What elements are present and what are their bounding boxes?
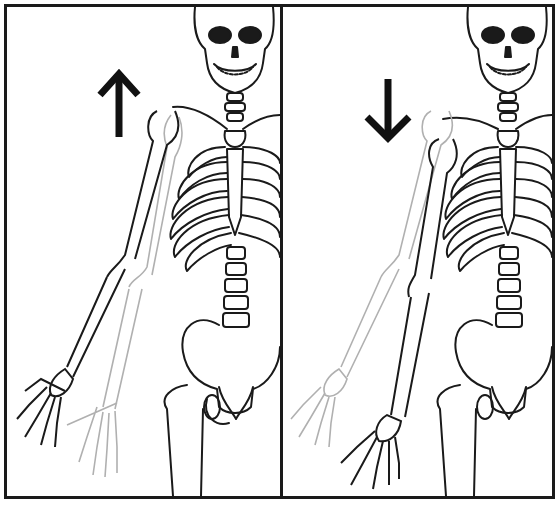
skull-icon — [194, 7, 273, 93]
skeleton-illustration-right — [283, 7, 552, 496]
femur — [165, 385, 187, 496]
lumbar-spine — [496, 247, 522, 327]
hand-icon — [17, 369, 73, 447]
rib-cage — [170, 147, 280, 271]
skull-icon — [467, 7, 546, 93]
panel-right-arm-lower: arm lowered (adduction) — [283, 7, 552, 496]
down-arrow-icon — [367, 79, 409, 139]
pelvis — [182, 320, 280, 424]
pelvis — [455, 320, 552, 419]
ghost-arm-raised — [291, 111, 452, 447]
figure-frame: arm raised (abduction) — [4, 4, 555, 499]
cervical-spine — [225, 93, 245, 121]
cervical-spine — [498, 93, 518, 121]
femur — [438, 385, 460, 496]
skeleton-illustration-left — [7, 7, 280, 496]
arm-raised — [17, 111, 178, 447]
ghost-arm-lowered — [67, 115, 182, 477]
panel-left-arm-raise: arm raised (abduction) — [7, 7, 280, 496]
rib-cage — [443, 147, 552, 271]
lumbar-spine — [223, 247, 249, 327]
up-arrow-icon — [100, 74, 138, 137]
hand-icon — [341, 415, 401, 489]
arm-lowered — [341, 139, 457, 489]
